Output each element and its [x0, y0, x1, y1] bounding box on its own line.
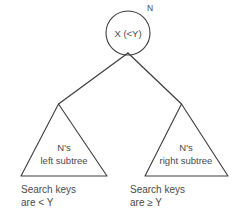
edge-root-to-right-subtree — [128, 53, 182, 104]
left-subtree-label-line1: N's — [57, 142, 71, 153]
right-caption-line2: are ≥ Y — [130, 197, 162, 208]
root-node-tag-label: N — [147, 3, 153, 13]
diagram-canvas: X (<Y) N N's left subtree N's right subt… — [0, 0, 233, 218]
right-subtree-label-line2: right subtree — [160, 155, 213, 166]
left-caption-line2: are < Y — [21, 197, 54, 208]
left-subtree-label-line2: left subtree — [41, 155, 88, 166]
bst-node-diagram: X (<Y) N N's left subtree N's right subt… — [0, 0, 233, 218]
edge-root-to-left-subtree — [59, 53, 129, 104]
root-node-label: X (<Y) — [114, 28, 141, 39]
right-caption-line1: Search keys — [130, 184, 185, 195]
left-caption-line1: Search keys — [21, 184, 76, 195]
right-subtree-label-line1: N's — [179, 142, 193, 153]
